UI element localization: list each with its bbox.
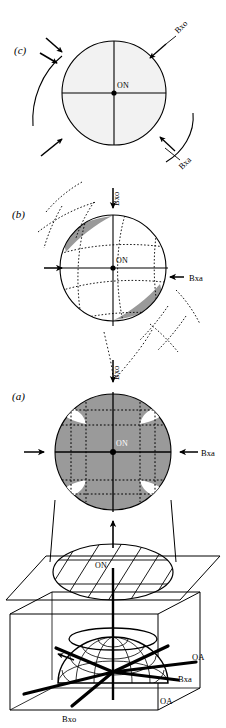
panel-a-on-label: ON [116, 439, 128, 448]
block-oa-upper-label: OA [192, 652, 205, 662]
panel-c-arc-lower-right [166, 113, 193, 162]
panel-b-bxa-label: Bxa [189, 273, 203, 283]
panel-c-center-dot [111, 90, 116, 95]
mid-ellipse-hatching [40, 540, 190, 604]
panel-c-bxo-leader [166, 36, 176, 44]
panel-c-bxo-label: Bxo [172, 18, 189, 35]
block-bxo-label: Bxo [62, 714, 76, 724]
panel-c-label: (c) [14, 44, 27, 57]
panel-b-bxo-label: Bxo [111, 192, 121, 206]
panel-b: (b) [12, 182, 203, 352]
panel-a-center-dot [110, 449, 116, 455]
panel-c-arc-upper-left [33, 56, 62, 126]
panel-c: (c) ON Bxo Bxa [14, 18, 193, 171]
block-oa-lower-label: OA [160, 696, 173, 706]
panel-c-bxa-arrow [160, 137, 175, 151]
panel-c-on-label: ON [117, 81, 129, 90]
panel-a: (a) ON Bxo Bxa [12, 360, 215, 512]
panel-b-center-dot [110, 265, 115, 270]
panel-b-on-label: ON [116, 256, 128, 265]
block-bxa-label: Bxa [178, 674, 192, 684]
panel-c-bxa-label: Bxa [176, 155, 193, 172]
panel-c-arrow-ll [41, 139, 62, 156]
panel-b-grid-extension [38, 182, 200, 352]
panel-a-label: (a) [12, 390, 25, 403]
block-diagram: OA Bxa OA Bxo [10, 592, 205, 724]
panel-a-bxa-label: Bxa [201, 448, 215, 458]
panel-c-arrow-ul-2 [40, 53, 57, 63]
figure-svg: (c) ON Bxo Bxa (b) [0, 0, 226, 728]
panel-b-label: (b) [12, 208, 25, 221]
panel-c-bxo-arrow [150, 44, 166, 58]
panel-c-arrow-ul-1 [46, 38, 62, 52]
panel-a-bxo-label: Bxo [111, 366, 121, 380]
figure-root: (c) ON Bxo Bxa (b) [0, 0, 226, 728]
mid-on-label: ON [95, 561, 107, 570]
